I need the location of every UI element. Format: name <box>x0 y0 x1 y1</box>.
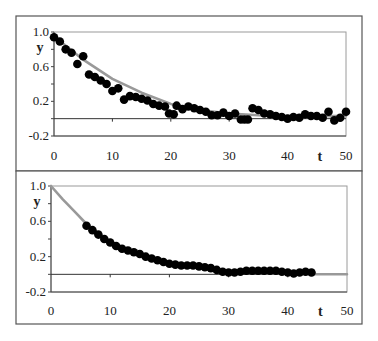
x-tick-label: 0 <box>51 148 58 163</box>
x-tick-label: 30 <box>222 303 235 318</box>
data-point <box>244 115 253 124</box>
x-tick-label: 50 <box>340 148 353 163</box>
x-tick-label: 20 <box>163 303 176 318</box>
data-point <box>79 52 88 61</box>
y-tick-label: 0.6 <box>30 213 47 228</box>
x-axis-title: t <box>317 149 322 164</box>
data-point <box>307 268 316 277</box>
data-point <box>73 60 82 69</box>
y-tick-label: 0.2 <box>33 93 49 108</box>
x-tick-label: 50 <box>341 303 354 318</box>
data-point <box>342 107 351 116</box>
x-tick-label: 40 <box>281 148 294 163</box>
chart-frame <box>16 16 362 171</box>
y-tick-label: 1.0 <box>33 24 49 39</box>
x-axis-title: t <box>318 304 323 319</box>
chart-figure: 010203040501.00.60.2-0.2yt 010203040501.… <box>0 0 378 341</box>
y-tick-label: -0.2 <box>28 128 49 143</box>
data-point <box>102 80 111 89</box>
x-tick-label: 0 <box>48 303 55 318</box>
y-axis-title: y <box>37 40 44 55</box>
y-tick-label: 1.0 <box>30 178 46 193</box>
data-point <box>114 84 123 93</box>
y-tick-label: 0.6 <box>33 59 50 74</box>
data-point <box>169 110 178 119</box>
data-point <box>324 107 333 116</box>
data-point <box>67 49 76 58</box>
x-tick-label: 40 <box>281 303 294 318</box>
y-tick-label: -0.2 <box>25 284 46 299</box>
x-tick-label: 10 <box>106 148 119 163</box>
x-tick-label: 10 <box>104 303 117 318</box>
y-axis-title: y <box>34 194 41 209</box>
bottom-chart-panel: 010203040501.00.60.2-0.2yt <box>16 171 362 324</box>
chart-frame <box>16 171 362 324</box>
x-tick-label: 20 <box>164 148 177 163</box>
top-chart-panel: 010203040501.00.60.2-0.2yt <box>16 16 362 171</box>
x-tick-label: 30 <box>223 148 236 163</box>
y-tick-label: 0.2 <box>30 249 46 264</box>
data-point <box>56 37 65 46</box>
